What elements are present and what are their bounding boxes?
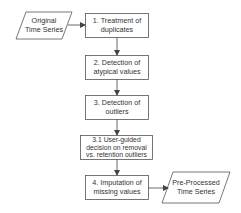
step-2-line2: atypical values (93, 68, 140, 76)
output-label: Pre-Processed Time Series (167, 173, 225, 202)
step-3-label: 3. Detection of outliers (86, 96, 148, 119)
step-3-1-line2: decision on removal (86, 144, 146, 152)
input-label-line2: Time Series (25, 26, 63, 34)
step-3-1-line1: 3.1 User-guided (92, 136, 140, 144)
output-label-line2: Time Series (177, 188, 215, 196)
step-2-label: 2. Detection of atypical values (86, 56, 148, 79)
step-4-line2: missing values (93, 188, 140, 196)
step-4-label: 4. Imputation of missing values (86, 176, 148, 199)
step-3-1-line3: vs. retention outliers (86, 151, 147, 159)
step-1-label: 1. Treatment of duplicates (86, 14, 148, 37)
input-label: Original Time Series (20, 12, 68, 39)
step-3-1-label: 3.1 User-guided decision on removal vs. … (81, 136, 152, 159)
step-3-line2: outliers (105, 108, 128, 116)
step-1-line2: duplicates (101, 26, 133, 34)
